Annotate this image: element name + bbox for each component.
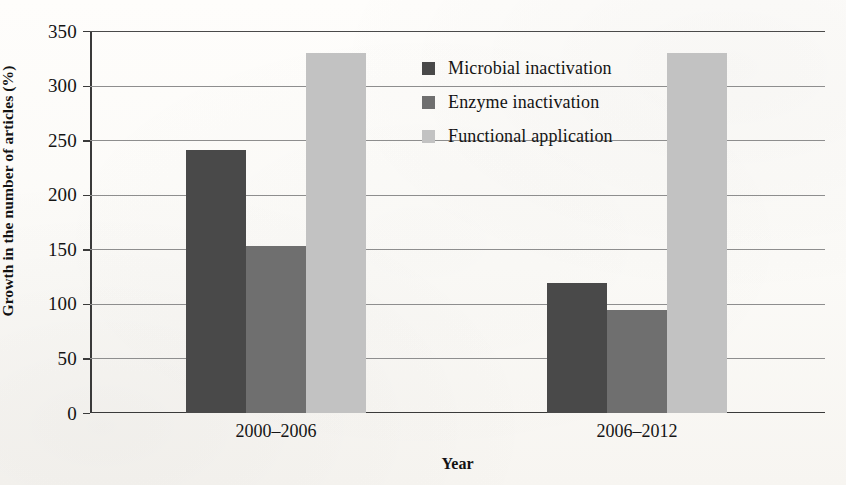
y-axis-line bbox=[90, 31, 92, 413]
bar bbox=[607, 310, 667, 413]
y-axis-tick-label: 200 bbox=[31, 185, 77, 204]
x-axis-title: Year bbox=[90, 455, 825, 473]
legend-item: Enzyme inactivation bbox=[422, 93, 613, 111]
gridline bbox=[90, 31, 825, 32]
legend-swatch-icon bbox=[422, 62, 435, 75]
y-axis-tick bbox=[83, 413, 90, 414]
legend-swatch-icon bbox=[422, 96, 435, 109]
bar bbox=[547, 283, 607, 413]
y-axis-tick-label: 300 bbox=[31, 76, 77, 95]
y-axis-title: Growth in the number of articles (%) bbox=[0, 0, 21, 382]
y-axis-tick bbox=[83, 249, 90, 250]
bar bbox=[306, 53, 366, 413]
y-axis-tick-label: 100 bbox=[31, 294, 77, 313]
legend-swatch-icon bbox=[422, 130, 435, 143]
plot-area: Microbial inactivationEnzyme inactivatio… bbox=[90, 31, 825, 413]
bar bbox=[667, 53, 727, 413]
legend-label: Microbial inactivation bbox=[448, 59, 612, 77]
y-axis-tick bbox=[83, 304, 90, 305]
bar bbox=[246, 246, 306, 413]
y-axis-tick-label: 50 bbox=[31, 349, 77, 368]
y-axis-tick bbox=[83, 86, 90, 87]
x-axis-category-label: 2000–2006 bbox=[186, 421, 366, 442]
y-axis-tick-label: 150 bbox=[31, 240, 77, 259]
x-axis-category-label: 2006–2012 bbox=[547, 421, 727, 442]
y-axis-tick-label: 250 bbox=[31, 131, 77, 150]
legend-item: Functional application bbox=[422, 127, 613, 145]
y-axis-tick bbox=[83, 358, 90, 359]
y-axis-tick-label: 350 bbox=[31, 22, 77, 41]
y-axis-tick bbox=[83, 195, 90, 196]
legend: Microbial inactivationEnzyme inactivatio… bbox=[422, 59, 613, 145]
legend-item: Microbial inactivation bbox=[422, 59, 613, 77]
legend-label: Functional application bbox=[448, 127, 613, 145]
y-axis-tick-label: 0 bbox=[31, 404, 77, 423]
bar bbox=[186, 150, 246, 413]
y-axis-tick bbox=[83, 140, 90, 141]
legend-label: Enzyme inactivation bbox=[448, 93, 599, 111]
y-axis-tick bbox=[83, 31, 90, 32]
